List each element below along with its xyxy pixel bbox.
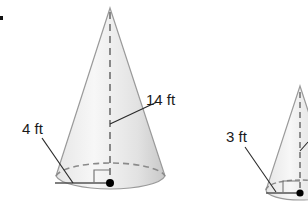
radius-label: 4 ft bbox=[22, 120, 44, 137]
small-radius-label: 3 ft bbox=[226, 128, 248, 145]
bullet-mark bbox=[0, 16, 3, 20]
small-radius-leader-line bbox=[245, 147, 276, 192]
height-label: 14 ft bbox=[146, 91, 176, 108]
large-cone-center-dot bbox=[106, 179, 114, 187]
small-cone: 3 ft bbox=[226, 86, 308, 200]
cone-diagram: 14 ft 4 ft 3 ft bbox=[0, 0, 308, 212]
large-cone: 14 ft 4 ft bbox=[22, 8, 176, 189]
small-cone-body bbox=[266, 86, 308, 200]
small-cone-center-dot bbox=[296, 189, 303, 196]
